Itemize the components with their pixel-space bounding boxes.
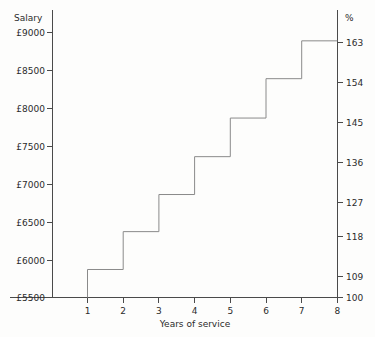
left-tick-label-6000: £6000: [16, 256, 45, 266]
right-tick-label-145: 145: [346, 118, 363, 128]
right-tick-label-163: 163: [346, 38, 363, 48]
x-axis-title: Years of service: [159, 319, 231, 329]
right-tick-label-127: 127: [346, 198, 363, 208]
right-tick-label-100: 100: [346, 293, 363, 303]
step-line-series: [88, 41, 338, 298]
salary-step-chart: Salary % Years of service £9000 £8500 £8…: [0, 0, 375, 337]
x-tick-label-1: 1: [85, 306, 91, 316]
x-tick-label-6: 6: [263, 306, 269, 316]
left-tick-label-5500: £5500: [16, 293, 45, 303]
left-axis-title: Salary: [14, 13, 43, 23]
chart-canvas: Salary % Years of service £9000 £8500 £8…: [0, 0, 375, 337]
left-tick-label-7500: £7500: [16, 142, 45, 152]
right-tick-label-118: 118: [346, 232, 363, 242]
x-tick-label-2: 2: [120, 306, 126, 316]
left-tick-label-6500: £6500: [16, 218, 45, 228]
right-tick-label-154: 154: [346, 78, 363, 88]
x-tick-label-7: 7: [299, 306, 305, 316]
x-tick-label-4: 4: [192, 306, 198, 316]
right-axis-title: %: [345, 13, 354, 23]
right-tick-label-136: 136: [346, 158, 363, 168]
left-tick-label-8500: £8500: [16, 66, 45, 76]
x-tick-marks: [88, 298, 338, 304]
left-tick-marks: [47, 33, 53, 298]
x-tick-label-8: 8: [335, 306, 341, 316]
x-tick-label-3: 3: [156, 306, 162, 316]
left-tick-label-7000: £7000: [16, 180, 45, 190]
right-tick-marks: [338, 43, 344, 298]
left-tick-label-9000: £9000: [16, 28, 45, 38]
x-tick-label-5: 5: [227, 306, 233, 316]
left-tick-label-8000: £8000: [16, 104, 45, 114]
right-tick-label-109: 109: [346, 272, 363, 282]
